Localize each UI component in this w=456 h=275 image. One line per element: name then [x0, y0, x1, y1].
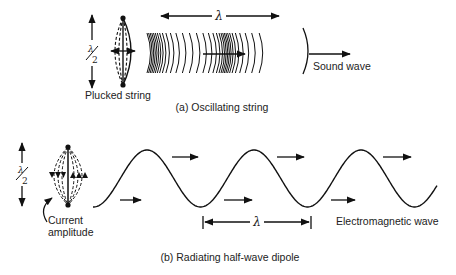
sound-wavefronts: [147, 28, 308, 74]
panel-a-oscillating-string: λ λ 2 Plucked string Sound wave: [85, 9, 371, 113]
caption-b: (b) Radiating half-wave dipole: [161, 251, 300, 263]
wavefront-arc: [196, 33, 200, 73]
panel-b-radiating-dipole: λ 2 Current amplitude: [16, 143, 439, 263]
string-endpoint-bottom: [120, 82, 125, 87]
sound-wave-label: Sound wave: [313, 60, 371, 72]
wavelength-symbol: λ: [252, 215, 261, 229]
wavefront-arc: [208, 33, 212, 73]
wavefront-arc: [252, 33, 256, 73]
wavefront-arc-leading: [303, 28, 308, 74]
wavefront-arc: [213, 33, 217, 73]
half-wavelength-dimension-b: λ 2: [16, 143, 28, 206]
wavefront-arc: [182, 33, 186, 73]
half-wave-dipole: [49, 144, 88, 207]
wavefront-arc: [160, 33, 164, 73]
electromagnetic-wave-curve: [93, 150, 437, 207]
wavefront-arc: [189, 33, 193, 73]
half-wavelength-denominator: 2: [22, 176, 28, 186]
plucked-string: [111, 15, 135, 87]
half-wavelength-numerator: λ: [17, 165, 24, 175]
half-wavelength-dimension-a: λ 2: [86, 15, 98, 88]
wavefront-arc: [170, 33, 174, 73]
string-endpoint-top: [120, 15, 125, 20]
electromagnetic-wave-label: Electromagnetic wave: [336, 215, 439, 227]
diagram-canvas: λ λ 2 Plucked string Sound wave: [0, 0, 456, 275]
current-amplitude-label-line1: Current: [48, 214, 83, 226]
wavelength-dimension-b: λ: [203, 215, 311, 229]
wavelength-symbol: λ: [214, 9, 223, 23]
half-wavelength-denominator: 2: [92, 55, 98, 65]
wavefront-arc: [240, 33, 244, 73]
wavefront-arc: [259, 33, 263, 73]
dipole-endpoint-top: [65, 144, 70, 149]
dipole-endpoint-bottom: [65, 202, 70, 207]
wavefront-arc: [216, 33, 220, 73]
wavefront-arc: [166, 33, 170, 73]
wavelength-dimension-a: λ: [161, 9, 279, 23]
wavefront-arc: [176, 33, 180, 73]
caption-a: (a) Oscillating string: [176, 101, 269, 113]
wavefront-arc: [245, 33, 249, 73]
current-amplitude-label-line2: amplitude: [48, 226, 94, 238]
plucked-string-label: Plucked string: [85, 89, 151, 101]
wavefront-arc: [203, 33, 207, 73]
